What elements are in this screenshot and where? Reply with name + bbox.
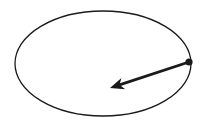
ellipse-outline [15,11,191,116]
ellipse-diagram [0,0,203,123]
arrow-shaft [119,62,189,85]
boundary-point [185,58,192,65]
